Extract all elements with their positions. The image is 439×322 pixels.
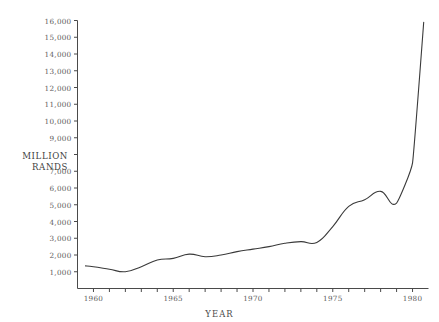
chart-figure: 1,0002,0003,0004,0005,0006,0007,0009,000… [0,0,439,322]
data-series-line [85,22,423,272]
y-tick-label: 15,000 [0,33,72,42]
y-axis-title-line-1: MILLION [0,151,68,162]
y-tick-label: 1,000 [0,267,72,276]
x-tick-label: 1980 [403,294,423,303]
y-tick-label: 13,000 [0,66,72,75]
y-axis-title: MILLION RANDS [0,151,68,173]
y-tick-label: 4,000 [0,217,72,226]
y-tick-label: 11,000 [0,100,72,109]
x-tick-label: 1975 [323,294,343,303]
x-axis-ticks [93,289,412,293]
y-tick-label: 16,000 [0,16,72,25]
y-tick-label: 9,000 [0,133,72,142]
x-tick-label: 1960 [84,294,104,303]
y-tick-label: 3,000 [0,234,72,243]
x-tick-label: 1970 [243,294,263,303]
y-tick-label: 12,000 [0,83,72,92]
y-tick-label: 2,000 [0,251,72,260]
y-axis-title-line-2: RANDS [0,162,68,173]
x-axis-title: YEAR [0,309,439,319]
chart-axes [74,21,429,293]
x-tick-label: 1965 [163,294,183,303]
y-tick-label: 14,000 [0,50,72,59]
y-axis-ticks [74,21,78,272]
y-tick-label: 6,000 [0,184,72,193]
y-tick-label: 10,000 [0,117,72,126]
y-tick-label: 5,000 [0,200,72,209]
